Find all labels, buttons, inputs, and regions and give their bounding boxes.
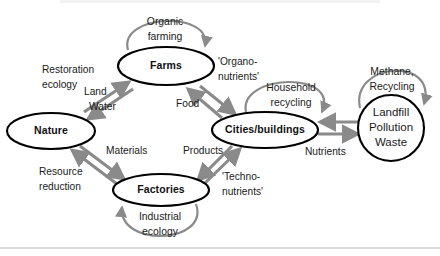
loop-label-organic-farming-line1: Organic (147, 16, 183, 27)
arrow-farms-to-cities (200, 86, 235, 114)
edge-label-organo-nutrients: 'Organo- nutrients' (218, 56, 259, 82)
edge-label-products: Products (183, 145, 223, 156)
edge-label-food: Food (176, 98, 200, 109)
self-loop-organic-farming: Organic farming (127, 16, 205, 50)
nature-label: Nature (34, 124, 68, 136)
farms-label: Farms (150, 59, 182, 71)
edge-cities-landfill (318, 122, 362, 134)
edge-label-techno-nutrients: 'Techno- nutrients' (222, 171, 263, 197)
node-landfill[interactable]: Landfill Pollution Waste (358, 95, 424, 161)
loop-label-industrial-ecology-line1: Industrial (139, 211, 181, 222)
loop-label-methane-recycling-line1: Methane, (370, 66, 413, 77)
self-loop-household-recycling: Household recycling (246, 82, 325, 112)
loop-label-methane-recycling-line2: Recycling (369, 81, 414, 92)
edge-label-resource-reduction: Resource reduction (39, 166, 83, 192)
edge-label-water: Water (89, 101, 116, 112)
landfill-label-line2: Pollution (369, 121, 413, 133)
techno-nutrients-line1: 'Techno- (222, 171, 260, 182)
restoration-ecology-line2: ecology (42, 79, 78, 90)
eco-cycle-diagram: Organic farming Household recycling Meth… (0, 0, 440, 256)
node-farms[interactable]: Farms (118, 47, 214, 85)
organo-nutrients-line2: nutrients' (218, 71, 259, 82)
loop-label-household-recycling-line2: recycling (271, 97, 312, 108)
organo-nutrients-line1: 'Organo- (218, 56, 257, 67)
landfill-label-line1: Landfill (373, 106, 409, 118)
node-cities-buildings[interactable]: Cities/buildings (212, 112, 318, 148)
edge-label-land: Land (84, 86, 107, 97)
techno-nutrients-line2: nutrients' (222, 186, 263, 197)
loop-label-organic-farming-line2: farming (148, 31, 183, 42)
factories-label: Factories (137, 183, 185, 195)
node-nature[interactable]: Nature (7, 113, 95, 149)
restoration-ecology-line1: Restoration (42, 64, 94, 75)
resource-reduction-line1: Resource (39, 166, 83, 177)
resource-reduction-line2: reduction (39, 181, 81, 192)
edge-label-materials: Materials (106, 145, 147, 156)
cut-off-caption-ghost (60, 0, 380, 3)
self-loop-industrial-ecology: Industrial ecology (122, 204, 198, 237)
loop-label-household-recycling-line1: Household (266, 82, 316, 93)
landfill-label-line3: Waste (375, 136, 407, 148)
edge-label-nutrients: Nutrients (305, 146, 346, 157)
diagram-root: Organic farming Household recycling Meth… (0, 0, 440, 256)
loop-label-industrial-ecology-line2: ecology (142, 226, 179, 237)
cities-label: Cities/buildings (225, 123, 305, 135)
node-factories[interactable]: Factories (113, 174, 209, 206)
